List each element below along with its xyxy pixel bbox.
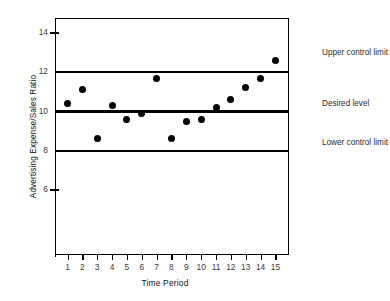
x-tick-mark: [275, 254, 276, 260]
x-tick-label: 7: [149, 263, 165, 271]
y-tick-label: 14: [32, 28, 48, 38]
x-tick-mark: [142, 254, 143, 260]
x-tick-label: 15: [267, 263, 283, 271]
y-tick-label-text: 8: [34, 146, 48, 154]
data-point: [257, 75, 264, 82]
x-tick-label: 10: [193, 263, 209, 271]
x-tick-mark: [246, 254, 247, 260]
x-tick-label: 8: [163, 263, 179, 271]
x-tick-label: 12: [223, 263, 239, 271]
lower-control-limit-line: [56, 150, 289, 152]
data-point: [109, 102, 116, 109]
x-tick-mark: [216, 254, 217, 260]
desired-level-line: [56, 110, 289, 112]
x-tick-mark: [97, 254, 98, 260]
x-tick-mark: [68, 254, 69, 260]
x-axis-title: Time Period: [50, 278, 280, 288]
y-tick-label-text: 14: [34, 28, 48, 36]
data-point: [213, 104, 220, 111]
y-tick-label: 6: [32, 185, 48, 195]
x-tick-mark: [112, 254, 113, 260]
y-tick-label-text: 6: [34, 185, 48, 193]
x-tick-mark: [157, 254, 158, 260]
y-tick-label: 10: [32, 107, 48, 117]
x-tick-mark: [171, 254, 172, 260]
y-tick-mark: [50, 32, 59, 34]
x-tick-label: 3: [89, 263, 105, 271]
y-tick-mark: [50, 189, 59, 191]
y-axis-line: [55, 18, 56, 257]
y-tick-label: 12: [32, 67, 48, 77]
data-point: [198, 116, 205, 123]
x-tick-mark: [186, 254, 187, 260]
annotation-desired-level: Desired level: [322, 99, 388, 110]
y-tick-label-text: 10: [34, 107, 48, 115]
data-point: [272, 57, 279, 64]
x-tick-label: 5: [119, 263, 135, 271]
x-tick-label: 1: [60, 263, 76, 271]
y-tick-label: 8: [32, 146, 48, 156]
y-tick-label-text: 12: [34, 67, 48, 75]
x-tick-label: 9: [178, 263, 194, 271]
upper-control-limit-line: [56, 71, 289, 73]
x-tick-mark: [127, 254, 128, 260]
data-point: [153, 75, 160, 82]
x-tick-label: 13: [238, 263, 254, 271]
x-tick-label: 11: [208, 263, 224, 271]
x-tick-label: 6: [134, 263, 150, 271]
x-tick-mark: [201, 254, 202, 260]
data-point: [183, 118, 190, 125]
annotation-lower-control-limit: Lower control limit: [322, 138, 388, 149]
x-tick-label: 2: [74, 263, 90, 271]
x-tick-label: 4: [104, 263, 120, 271]
x-tick-label: 14: [253, 263, 269, 271]
control-chart: Advertising Expense/Sales Ratio 68101214…: [0, 0, 390, 301]
annotation-upper-control-limit: Upper control limit: [322, 48, 388, 59]
x-tick-mark: [261, 254, 262, 260]
x-tick-mark: [82, 254, 83, 260]
x-tick-mark: [231, 254, 232, 260]
